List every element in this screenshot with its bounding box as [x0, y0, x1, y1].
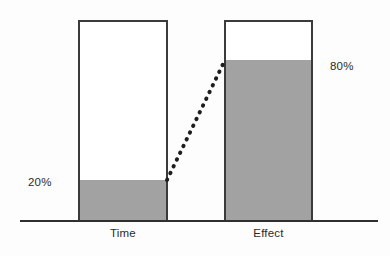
value-label-effect: 80%	[330, 60, 354, 72]
dotted-connector-line	[0, 0, 390, 256]
value-label-time: 20%	[28, 176, 52, 188]
bar-fill-time	[80, 180, 166, 220]
baseline-axis	[20, 220, 378, 222]
chart-container: 20% 80% Time Effect	[0, 0, 390, 256]
category-label-time: Time	[78, 227, 168, 239]
bar-fill-effect	[226, 60, 311, 220]
category-label-effect: Effect	[224, 227, 313, 239]
